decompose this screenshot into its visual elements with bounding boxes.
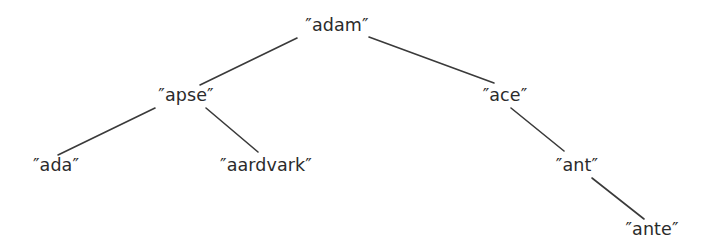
tree-node-ante: ″ante″ [625,221,678,239]
edge-adam-apse [200,38,297,85]
edge-ant-ante [592,178,644,219]
tree-node-ada: ″ada″ [33,157,79,175]
tree-node-aardvark: ″aardvark″ [220,157,312,175]
tree-node-adam: ″adam″ [305,17,368,35]
edge-apse-aardvark [206,108,258,152]
edge-apse-ada [58,108,155,155]
tree-node-ace: ″ace″ [483,87,528,105]
tree-diagram: ″adam″″apse″″ace″″ada″″aardvark″″ant″″an… [0,0,712,249]
tree-edges [58,37,644,219]
tree-edge-layer [0,0,712,249]
tree-node-apse: ″apse″ [158,87,213,105]
edge-adam-ace [369,37,494,83]
tree-node-ant: ″ant″ [556,157,598,175]
edge-ace-ant [511,108,564,151]
